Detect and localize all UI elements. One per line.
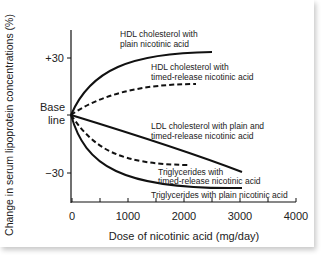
x-tick-label: 0 <box>69 210 75 222</box>
x-tick-label: 4000 <box>284 210 308 222</box>
annotation-ldl: LDL cholesterol with plain and <box>151 121 264 131</box>
y-tick-label: line <box>48 114 65 126</box>
x-axis-title: Dose of nicotinic acid (mg/day) <box>109 230 259 242</box>
annotation-hdl-timed: timed-release nicotinic acid <box>151 72 254 82</box>
x-tick-label: 3000 <box>228 210 252 222</box>
annotation-tg-timed: timed-release nicotinic acid <box>158 176 261 186</box>
y-axis-title: Change in serum lipoprotein concentratio… <box>3 14 15 236</box>
annotation-ldl: timed-release nicotinic acid <box>151 131 254 141</box>
annotation-hdl-plain: HDL cholesterol with <box>120 29 198 39</box>
annotation-hdl-timed: HDL cholesterol with <box>151 62 229 72</box>
line-chart: Change in serum lipoprotein concentratio… <box>0 0 332 268</box>
annotation-tg-plain: Triglycerides with plain nicotinic acid <box>151 190 288 200</box>
y-tick-label: Base <box>40 101 65 113</box>
x-tick-label: 2000 <box>172 210 196 222</box>
x-tick-label: 1000 <box>116 210 140 222</box>
y-tick-label: −30 <box>45 167 64 179</box>
y-tick-label: +30 <box>45 52 64 64</box>
series-hdl-timed <box>71 84 196 115</box>
annotation-hdl-plain: plain nicotinic acid <box>120 39 189 49</box>
